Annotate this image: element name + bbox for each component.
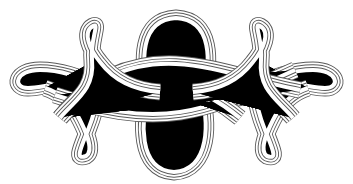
knot-illustration	[0, 0, 353, 184]
